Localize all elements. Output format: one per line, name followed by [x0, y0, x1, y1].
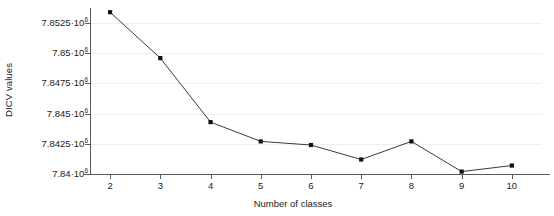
- y-axis-tick-label: 7.8525·106: [42, 18, 88, 28]
- y-axis-tick-label: 7.85·106: [52, 48, 88, 58]
- y-axis-tick-mark: [85, 23, 90, 24]
- data-point-marker: [108, 10, 112, 14]
- x-axis-title: Number of classes: [0, 198, 554, 209]
- y-axis-tick-label: 7.84·106: [52, 169, 88, 179]
- x-axis-tick-mark: [512, 174, 513, 179]
- line-chart: DICV values 7.84·1067.8425·1067.845·1067…: [0, 0, 554, 216]
- data-point-marker: [208, 120, 212, 124]
- x-axis-tick-label: 3: [158, 181, 163, 191]
- x-axis-title-label: Number of classes: [254, 198, 333, 209]
- y-axis-tick-label: 7.8425·106: [42, 139, 88, 149]
- x-axis-tick-label: 10: [507, 181, 518, 191]
- x-axis-tick-label: 4: [208, 181, 213, 191]
- y-axis-tick-label: 7.845·106: [47, 109, 88, 119]
- y-axis-tick-label: 7.8475·106: [42, 78, 88, 88]
- y-axis-line: [90, 8, 91, 174]
- x-axis-tick-label: 8: [409, 181, 414, 191]
- x-axis-tick-label: 7: [359, 181, 364, 191]
- x-axis-tick-mark: [160, 174, 161, 179]
- plot-area: [90, 8, 542, 174]
- data-point-marker: [510, 163, 514, 167]
- data-point-marker: [259, 139, 263, 143]
- y-axis-tick-mark: [85, 53, 90, 54]
- x-axis-tick-label: 5: [258, 181, 263, 191]
- data-point-marker: [409, 139, 413, 143]
- x-axis-tick-mark: [261, 174, 262, 179]
- x-axis-tick-label: 9: [459, 181, 464, 191]
- x-axis-tick-mark: [411, 174, 412, 179]
- x-axis-tick-mark: [110, 174, 111, 179]
- x-axis-tick-label: 2: [107, 181, 112, 191]
- y-axis-tick-mark: [85, 114, 90, 115]
- y-axis-tick-mark: [85, 83, 90, 84]
- y-axis-title-label: DICV values: [3, 63, 14, 117]
- series-polyline: [110, 12, 512, 171]
- x-axis-tick-mark: [462, 174, 463, 179]
- y-axis-tick-labels: 7.84·1067.8425·1067.845·1067.8475·1067.8…: [14, 0, 88, 216]
- x-axis-line: [84, 174, 550, 175]
- data-point-marker: [158, 56, 162, 60]
- data-point-marker: [309, 143, 313, 147]
- x-axis-tick-label: 6: [308, 181, 313, 191]
- x-axis-tick-mark: [361, 174, 362, 179]
- y-axis-tick-mark: [85, 144, 90, 145]
- x-axis-tick-mark: [311, 174, 312, 179]
- series-line-dicv: [90, 8, 542, 174]
- data-point-marker: [359, 157, 363, 161]
- x-axis-tick-mark: [211, 174, 212, 179]
